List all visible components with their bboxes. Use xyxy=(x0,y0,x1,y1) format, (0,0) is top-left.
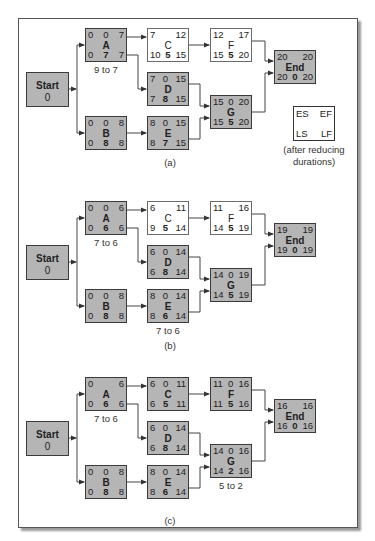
late-finish: 8 xyxy=(119,138,124,148)
node-top-row: 0 0 8 xyxy=(88,467,124,477)
legend-es: ES xyxy=(296,108,309,119)
node-top-row: 0 6 xyxy=(88,379,124,389)
duration-change-note: 5 to 2 xyxy=(210,480,252,491)
slack: 0 xyxy=(103,203,108,213)
duration: 8 xyxy=(163,94,168,104)
node-bottom-row: 14 2 16 xyxy=(213,466,249,476)
node-top-row: 7 12 xyxy=(150,30,186,40)
duration-change-note: 7 to 6 xyxy=(85,413,127,424)
early-finish: 17 xyxy=(238,30,249,40)
slack: 0 xyxy=(163,423,168,433)
node-bottom-row: 6 5 11 xyxy=(150,399,186,409)
node-top-row: 8 0 15 xyxy=(150,118,186,128)
node-top-row: 6 11 xyxy=(150,203,186,213)
late-finish: 16 xyxy=(238,466,249,476)
node-top-row: 6 0 14 xyxy=(150,423,186,433)
early-start: 8 xyxy=(150,467,155,477)
early-start: 11 xyxy=(213,203,223,213)
duration: 0 xyxy=(292,421,297,431)
legend-caption-line2: durations) xyxy=(278,156,350,168)
late-start: 7 xyxy=(150,94,155,104)
early-finish: 7 xyxy=(119,30,124,40)
node-bottom-row: 0 8 8 xyxy=(88,138,124,148)
late-start: 15 xyxy=(213,50,224,60)
node-top-row: 20 20 xyxy=(277,52,313,62)
duration: 8 xyxy=(103,311,108,321)
late-start: 20 xyxy=(277,72,288,82)
early-start: 0 xyxy=(88,118,93,128)
late-finish: 14 xyxy=(175,443,186,453)
slack: 0 xyxy=(163,74,168,84)
early-finish: 6 xyxy=(119,379,124,389)
node-bottom-row: 8 6 14 xyxy=(150,487,186,497)
node-top-row: 0 0 7 xyxy=(88,30,124,40)
node-bottom-row: 0 6 6 xyxy=(88,399,124,409)
early-start: 0 xyxy=(88,30,93,40)
activity-node-f: 12 17 F 15 5 20 xyxy=(210,28,252,62)
late-start: 10 xyxy=(150,50,161,60)
legend-caption-line1: (after reducing xyxy=(278,144,350,156)
early-start: 8 xyxy=(150,118,155,128)
late-finish: 15 xyxy=(175,94,186,104)
early-start: 20 xyxy=(277,52,288,62)
duration: 7 xyxy=(103,50,108,60)
late-start: 6 xyxy=(150,443,155,453)
slack: 0 xyxy=(163,118,168,128)
early-finish: 19 xyxy=(302,225,313,235)
start-node: Start0 xyxy=(26,72,69,107)
slack: 0 xyxy=(163,379,168,389)
late-start: 14 xyxy=(213,466,224,476)
duration: 5 xyxy=(228,223,233,233)
late-start: 11 xyxy=(213,399,223,409)
late-start: 0 xyxy=(88,487,93,497)
early-start: 12 xyxy=(213,30,224,40)
activity-node-c: 7 12 C 10 5 15 xyxy=(147,28,189,62)
early-finish: 16 xyxy=(238,203,249,213)
late-start: 8 xyxy=(150,138,155,148)
early-start: 7 xyxy=(150,74,155,84)
late-finish: 20 xyxy=(302,72,313,82)
start-label: Start xyxy=(27,80,68,91)
panel-label: (b) xyxy=(150,340,190,351)
start-node: Start0 xyxy=(26,245,69,280)
early-finish: 11 xyxy=(176,203,186,213)
activity-node-d: 6 0 14 D 6 8 14 xyxy=(147,245,189,279)
duration: 6 xyxy=(163,487,168,497)
late-finish: 20 xyxy=(238,117,249,127)
node-top-row: 14 0 19 xyxy=(213,270,249,280)
early-finish: 8 xyxy=(119,291,124,301)
late-finish: 15 xyxy=(175,138,186,148)
early-start: 0 xyxy=(88,203,93,213)
panel-label: (a) xyxy=(150,157,190,168)
node-bottom-row: 0 8 8 xyxy=(88,487,124,497)
activity-node-d: 6 0 14 D 6 8 14 xyxy=(147,421,189,455)
node-bottom-row: 10 5 15 xyxy=(150,50,186,60)
late-finish: 16 xyxy=(238,399,249,409)
activity-node-g: 15 0 20 G 15 5 20 xyxy=(210,95,252,129)
node-top-row: 14 0 16 xyxy=(213,446,249,456)
early-finish: 15 xyxy=(175,118,186,128)
late-start: 6 xyxy=(150,267,155,277)
start-value: 0 xyxy=(27,92,68,103)
legend-box: ES EF LS LF xyxy=(293,106,335,141)
slack: 0 xyxy=(228,446,233,456)
early-finish: 16 xyxy=(238,379,249,389)
duration: 5 xyxy=(163,399,168,409)
duration: 5 xyxy=(165,50,170,60)
activity-node-b: 0 0 8 B 0 8 8 xyxy=(85,116,127,150)
activity-node-a: 0 6 A 0 6 6 xyxy=(85,377,127,411)
early-finish: 14 xyxy=(175,423,186,433)
early-start: 16 xyxy=(277,401,288,411)
node-bottom-row: 15 5 20 xyxy=(213,117,249,127)
node-top-row: 11 16 xyxy=(213,203,249,213)
node-top-row: 8 0 14 xyxy=(150,291,186,301)
early-start: 11 xyxy=(213,379,223,389)
legend-ls: LS xyxy=(296,128,308,139)
slack: 0 xyxy=(228,270,233,280)
duration: 8 xyxy=(103,487,108,497)
slack: 0 xyxy=(228,97,233,107)
node-bottom-row: 0 8 8 xyxy=(88,311,124,321)
early-finish: 15 xyxy=(175,74,186,84)
duration-change-note: 7 to 6 xyxy=(85,237,127,248)
early-finish: 6 xyxy=(119,203,124,213)
